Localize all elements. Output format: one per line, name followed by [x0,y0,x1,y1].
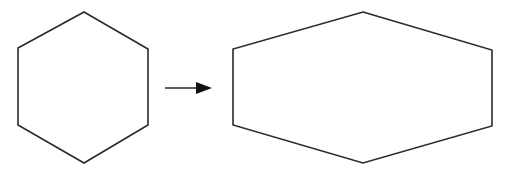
arrow-head [196,82,212,94]
stretched-hexagon [233,12,492,163]
transformation-diagram [0,0,508,174]
diagram-svg [0,0,508,174]
original-hexagon [18,12,148,163]
transform-arrow-icon [165,82,212,94]
